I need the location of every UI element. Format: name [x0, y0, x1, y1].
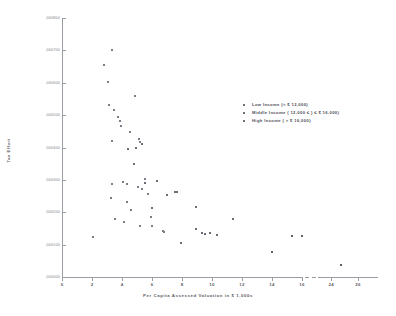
data-point	[151, 207, 153, 209]
data-point	[113, 109, 115, 111]
data-point	[144, 182, 146, 184]
data-point	[195, 228, 197, 230]
data-point	[103, 64, 105, 66]
data-point	[301, 235, 303, 237]
data-point	[151, 225, 153, 227]
plot-area	[0, 0, 396, 316]
data-point	[156, 180, 158, 182]
data-point	[135, 147, 137, 149]
data-point	[120, 125, 122, 127]
data-point	[141, 188, 143, 190]
data-point	[122, 181, 124, 183]
data-point	[123, 221, 125, 223]
legend-item-middle-income: Middle Income ( 12,000 ≤ ) ≤ $ 16,000)	[243, 109, 393, 117]
data-point	[92, 236, 94, 238]
legend-label: Low Income (< $ 12,000)	[252, 101, 308, 109]
data-point	[134, 95, 136, 97]
data-point	[130, 209, 132, 211]
chart-legend: Low Income (< $ 12,000) Middle Income ( …	[243, 101, 393, 125]
data-point	[141, 143, 143, 145]
data-point	[201, 232, 203, 234]
legend-label: High Income ( > $ 16,000)	[252, 117, 311, 125]
data-point	[204, 233, 206, 235]
data-point	[176, 191, 178, 193]
data-point	[126, 201, 128, 203]
legend-marker-icon	[243, 104, 245, 106]
data-point	[216, 234, 218, 236]
data-point	[232, 218, 234, 220]
legend-marker-icon	[243, 120, 245, 122]
data-point	[108, 104, 110, 106]
data-point	[271, 251, 273, 253]
data-point	[119, 120, 121, 122]
legend-item-high-income: High Income ( > $ 16,000)	[243, 117, 393, 125]
data-point	[150, 216, 152, 218]
data-point	[291, 235, 293, 237]
data-point	[163, 231, 165, 233]
data-point	[137, 186, 139, 188]
data-point	[144, 178, 146, 180]
data-point	[139, 225, 141, 227]
data-point	[126, 183, 128, 185]
scatter-chart-figure: .000000.000100.000200.000300.000400.0005…	[0, 0, 396, 316]
data-point	[111, 49, 113, 51]
legend-marker-icon	[243, 112, 245, 114]
data-point	[129, 131, 131, 133]
data-point	[114, 218, 116, 220]
data-point	[117, 116, 119, 118]
data-point	[107, 81, 109, 83]
data-point	[166, 194, 168, 196]
legend-item-low-income: Low Income (< $ 12,000)	[243, 101, 393, 109]
data-point	[111, 140, 113, 142]
data-point	[110, 197, 112, 199]
data-point	[180, 242, 182, 244]
y-axis-title: Tax Effort	[6, 131, 11, 171]
data-point	[195, 206, 197, 208]
data-point	[209, 232, 211, 234]
x-axis-title: Per Capita Assessed Valuation in $ 1,000…	[0, 293, 396, 298]
data-point	[147, 193, 149, 195]
data-point	[111, 183, 113, 185]
legend-label: Middle Income ( 12,000 ≤ ) ≤ $ 16,000)	[252, 109, 339, 117]
data-point	[127, 148, 129, 150]
data-point	[340, 264, 342, 266]
data-point	[133, 163, 135, 165]
